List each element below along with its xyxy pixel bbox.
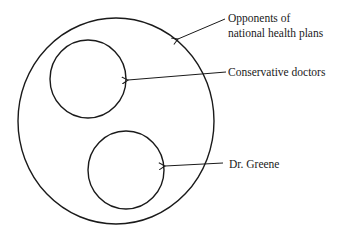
arrow-conservative-doctors [128,72,226,80]
label-dr-greene: Dr. Greene [229,157,279,171]
arrow-dr-greene [165,163,223,166]
label-conservative-doctors: Conservative doctors [228,65,325,79]
label-opponents-line1: Opponents of [228,11,290,25]
inner-circle-conservative-doctors [50,40,126,118]
outer-circle-opponents [18,18,214,224]
inner-circle-dr-greene [88,131,164,209]
arrow-opponents [178,19,225,39]
label-opponents-line2: national health plans [228,26,323,40]
